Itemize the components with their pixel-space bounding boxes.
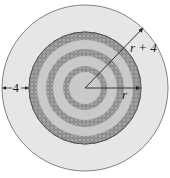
- label-r-plus-4: r + 4: [130, 40, 157, 55]
- concentric-circles-diagram: 4 r + 4 r: [0, 0, 170, 178]
- label-width-4: 4: [13, 80, 20, 95]
